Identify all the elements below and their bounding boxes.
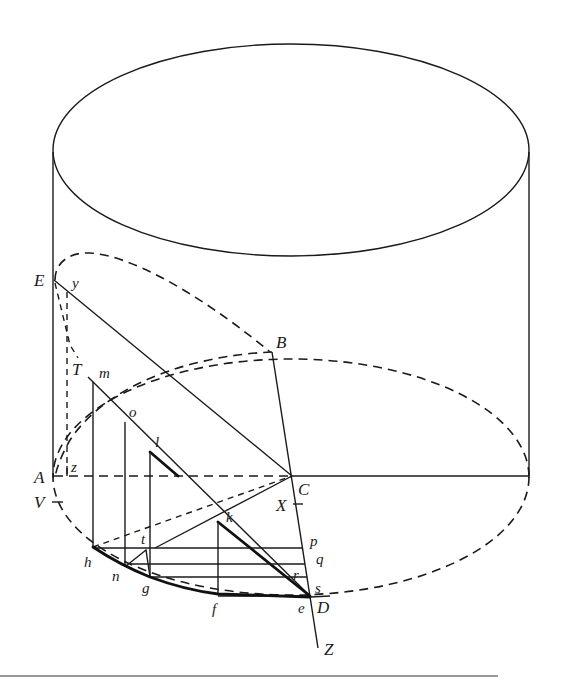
label-g: g (142, 580, 150, 596)
label-t: t (141, 531, 146, 547)
label-m: m (99, 365, 110, 381)
label-X: X (275, 496, 287, 515)
label-E: E (33, 271, 45, 290)
label-f: f (212, 601, 218, 617)
label-C: C (298, 480, 310, 499)
cylinder-section-diagram: E y B T m o l z A C V X k t p h q n r g … (0, 0, 562, 685)
section-curve-upper (55, 253, 270, 352)
label-Z: Z (324, 640, 334, 659)
line-k-D-thick (218, 522, 310, 596)
label-A: A (33, 468, 45, 487)
label-q: q (316, 551, 324, 567)
label-s: s (315, 580, 321, 596)
label-l: l (155, 434, 159, 450)
label-n: n (112, 568, 120, 584)
label-D: D (316, 598, 330, 617)
label-e: e (298, 600, 305, 616)
D-extension (310, 596, 330, 597)
label-y: y (70, 275, 79, 291)
label-V: V (34, 493, 47, 512)
label-r: r (293, 567, 299, 583)
label-k: k (226, 509, 233, 525)
label-B: B (276, 333, 287, 352)
line-T-D-thick (150, 452, 178, 476)
dashed-h-C (93, 476, 292, 547)
line-g-C (155, 476, 292, 548)
label-p: p (309, 533, 318, 549)
label-z: z (70, 459, 77, 475)
label-T: T (72, 360, 83, 379)
label-o: o (129, 404, 137, 420)
cylinder-top-ellipse (53, 44, 529, 256)
label-h: h (84, 554, 92, 570)
